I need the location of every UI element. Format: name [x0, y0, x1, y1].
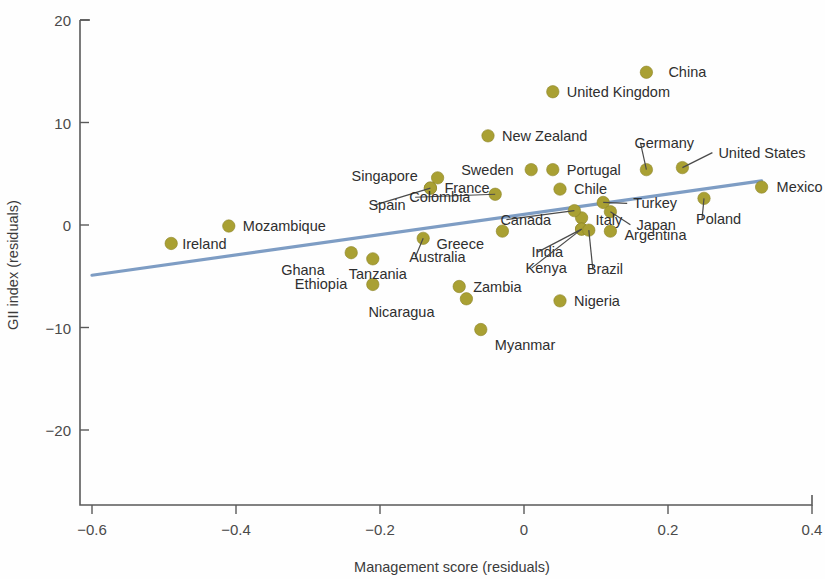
- label-leader-line: [682, 153, 712, 168]
- data-point[interactable]: [345, 246, 357, 258]
- scatter-chart: 20100−10−20−0.6−0.4−0.200.20.4 ChinaUnit…: [0, 0, 825, 579]
- data-point-label: Zambia: [473, 279, 522, 295]
- data-point-label: Brazil: [587, 261, 623, 277]
- data-point[interactable]: [482, 130, 494, 142]
- data-point-label: Mexico: [777, 179, 823, 195]
- point-labels: ChinaUnited KingdomNew ZealandGermanyUni…: [182, 64, 822, 352]
- data-point[interactable]: [431, 172, 443, 184]
- y-tick-label: −10: [46, 320, 71, 337]
- x-tick-label: −0.2: [365, 521, 395, 538]
- data-point-label: United States: [718, 145, 805, 161]
- data-point-label: Ireland: [182, 236, 226, 252]
- data-point[interactable]: [223, 220, 235, 232]
- data-point-label: Colombia: [409, 189, 471, 205]
- y-tick-label: −20: [46, 422, 71, 439]
- y-tick-label: 10: [54, 115, 71, 132]
- data-point[interactable]: [547, 86, 559, 98]
- data-point-label: Spain: [368, 197, 405, 213]
- data-point-label: Sweden: [461, 162, 513, 178]
- data-point-label: United Kingdom: [567, 84, 670, 100]
- data-point-label: Poland: [696, 211, 741, 227]
- data-point[interactable]: [475, 323, 487, 335]
- data-point-label: China: [668, 64, 707, 80]
- chart-canvas: 20100−10−20−0.6−0.4−0.200.20.4 ChinaUnit…: [0, 0, 825, 579]
- data-point-label: Tanzania: [349, 266, 408, 282]
- data-point[interactable]: [755, 181, 767, 193]
- y-tick-label: 20: [54, 12, 71, 29]
- axes: 20100−10−20−0.6−0.4−0.200.20.4: [46, 12, 823, 538]
- data-point[interactable]: [525, 163, 537, 175]
- data-point[interactable]: [640, 66, 652, 78]
- y-axis-title: GII index (residuals): [5, 200, 21, 330]
- data-point[interactable]: [453, 280, 465, 292]
- x-tick-label: 0.2: [658, 521, 679, 538]
- data-point[interactable]: [547, 163, 559, 175]
- x-tick-label: −0.4: [221, 521, 251, 538]
- x-tick-label: −0.6: [77, 521, 107, 538]
- data-point-label: Kenya: [526, 260, 568, 276]
- data-point-label: Argentina: [624, 227, 687, 243]
- data-point-label: Canada: [500, 212, 552, 228]
- data-point-label: Myanmar: [495, 337, 556, 353]
- data-point-label: Portugal: [567, 162, 621, 178]
- x-tick-label: 0: [520, 521, 528, 538]
- data-point-label: New Zealand: [502, 128, 587, 144]
- data-point[interactable]: [554, 295, 566, 307]
- data-point-label: Turkey: [633, 195, 678, 211]
- data-point-label: Ghana: [281, 262, 325, 278]
- data-point-label: Mozambique: [243, 218, 326, 234]
- y-tick-label: 0: [63, 217, 71, 234]
- data-point-label: Italy: [596, 212, 623, 228]
- data-point-label: Ethiopia: [295, 276, 348, 292]
- data-point-label: Germany: [634, 135, 694, 151]
- data-point-label: Nigeria: [574, 293, 621, 309]
- data-point[interactable]: [460, 293, 472, 305]
- data-point-label: Australia: [409, 249, 466, 265]
- data-point-label: Chile: [574, 181, 607, 197]
- data-point[interactable]: [367, 253, 379, 265]
- x-axis-title: Management score (residuals): [354, 559, 550, 575]
- data-point[interactable]: [554, 183, 566, 195]
- data-point[interactable]: [165, 237, 177, 249]
- x-tick-label: 0.4: [802, 521, 823, 538]
- data-point-label: Nicaragua: [368, 304, 435, 320]
- data-point-label: Singapore: [352, 168, 418, 184]
